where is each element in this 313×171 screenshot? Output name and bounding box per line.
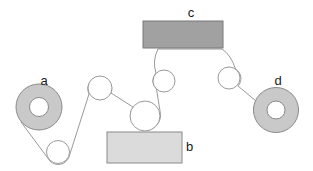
roll-a-core <box>30 98 49 117</box>
unit-c <box>143 21 223 48</box>
label-plate-b: b <box>186 139 193 154</box>
label-roll-a: a <box>40 73 48 88</box>
nip-roller-center <box>130 101 160 131</box>
roll-d <box>254 88 299 133</box>
roller-bottom-left <box>47 141 70 164</box>
roll-to-roll-schematic: a b c d <box>0 0 313 171</box>
process-diagram: a b c d <box>0 0 313 171</box>
roller-right <box>218 67 240 89</box>
roller-above-nip <box>153 70 175 92</box>
roll-d-core <box>267 101 285 119</box>
label-unit-c: c <box>188 5 195 20</box>
plate-b <box>107 132 182 163</box>
roller-left <box>88 76 112 100</box>
roll-a <box>16 84 62 130</box>
label-roll-d: d <box>274 73 281 88</box>
